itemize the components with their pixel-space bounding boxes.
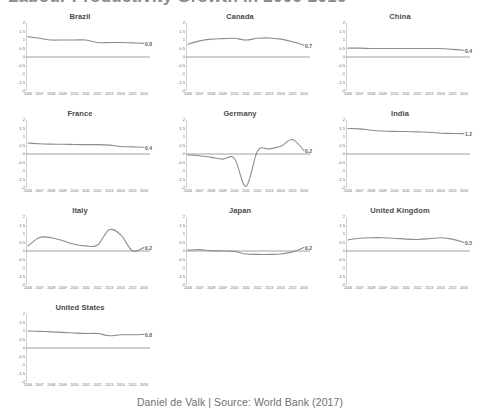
plot-area: 21.510.50-0.5-1-1.5-22006200720082009201… bbox=[12, 120, 152, 196]
y-axis-labels: 21.510.50-0.5-1-1.5-2 bbox=[12, 217, 25, 285]
y-tick-label: -1.5 bbox=[338, 80, 345, 84]
y-tick-label: 1 bbox=[343, 38, 345, 42]
x-tick-label: 2015 bbox=[448, 286, 456, 290]
y-tick-label: 0 bbox=[23, 152, 25, 156]
x-tick-label: 2010 bbox=[390, 92, 398, 96]
y-tick-label: -0.5 bbox=[18, 257, 25, 261]
y-tick-label: 0.5 bbox=[339, 46, 345, 50]
y-tick-label: 1.5 bbox=[339, 126, 345, 130]
y-tick-label: 0.5 bbox=[339, 240, 345, 244]
chart-canvas bbox=[346, 120, 470, 188]
x-tick-label: 2007 bbox=[356, 286, 364, 290]
x-tick-label: 2011 bbox=[242, 92, 250, 96]
chart-canvas bbox=[186, 120, 310, 188]
y-tick-label: 2 bbox=[343, 118, 345, 122]
x-axis-labels: 2006200720082009201020112012201320142015… bbox=[346, 189, 470, 196]
y-tick-label: 1.5 bbox=[339, 223, 345, 227]
y-tick-label: 0.5 bbox=[179, 143, 185, 147]
y-axis-labels: 21.510.50-0.5-1-1.5-2 bbox=[332, 23, 345, 91]
x-tick-label: 2007 bbox=[36, 92, 44, 96]
y-tick-label: -1 bbox=[341, 266, 345, 270]
y-tick-label: 0 bbox=[183, 249, 185, 253]
y-tick-label: -1 bbox=[21, 72, 25, 76]
x-tick-label: 2008 bbox=[47, 286, 55, 290]
x-tick-label: 2016 bbox=[300, 286, 308, 290]
y-tick-label: 1 bbox=[183, 135, 185, 139]
x-tick-label: 2012 bbox=[94, 383, 102, 387]
end-value-label: 0.2 bbox=[145, 245, 152, 251]
x-tick-label: 2007 bbox=[196, 286, 204, 290]
x-tick-label: 2011 bbox=[402, 92, 410, 96]
data-line bbox=[28, 37, 144, 44]
y-tick-label: 0 bbox=[343, 55, 345, 59]
x-tick-label: 2006 bbox=[344, 92, 352, 96]
x-tick-label: 2014 bbox=[117, 383, 125, 387]
y-tick-label: 2 bbox=[343, 21, 345, 25]
x-tick-label: 2015 bbox=[288, 189, 296, 193]
x-tick-label: 2008 bbox=[367, 189, 375, 193]
y-tick-label: 0.5 bbox=[339, 143, 345, 147]
y-tick-label: 1 bbox=[343, 135, 345, 139]
x-tick-label: 2008 bbox=[367, 286, 375, 290]
y-tick-label: 0.5 bbox=[19, 240, 25, 244]
y-tick-label: -1 bbox=[21, 169, 25, 173]
x-tick-label: 2006 bbox=[184, 189, 192, 193]
x-tick-label: 2015 bbox=[448, 189, 456, 193]
x-tick-label: 2009 bbox=[59, 383, 67, 387]
end-value-label: 0.2 bbox=[305, 245, 312, 251]
x-tick-label: 2016 bbox=[300, 189, 308, 193]
x-tick-label: 2015 bbox=[128, 92, 136, 96]
x-tick-label: 2014 bbox=[277, 92, 285, 96]
x-tick-label: 2006 bbox=[344, 189, 352, 193]
x-tick-label: 2015 bbox=[128, 286, 136, 290]
x-tick-label: 2009 bbox=[219, 286, 227, 290]
y-tick-label: 1 bbox=[23, 329, 25, 333]
x-tick-label: 2012 bbox=[94, 189, 102, 193]
footer-credit: Daniel de Valk | Source: World Bank (201… bbox=[0, 396, 480, 408]
end-value-label: 0.7 bbox=[305, 43, 312, 49]
x-tick-label: 2015 bbox=[128, 383, 136, 387]
x-tick-label: 2010 bbox=[70, 92, 78, 96]
x-axis-labels: 2006200720082009201020112012201320142015… bbox=[346, 286, 470, 293]
y-tick-label: 2 bbox=[23, 215, 25, 219]
chart-panel-canada: Canada21.510.50-0.5-1-1.5-22006200720082… bbox=[160, 9, 320, 106]
y-tick-label: 1.5 bbox=[19, 223, 25, 227]
x-tick-label: 2006 bbox=[24, 383, 32, 387]
chart-canvas bbox=[186, 217, 310, 285]
y-tick-label: -1.5 bbox=[18, 371, 25, 375]
y-tick-label: -0.5 bbox=[18, 63, 25, 67]
x-tick-label: 2015 bbox=[128, 189, 136, 193]
end-value-label: 0.5 bbox=[465, 240, 472, 246]
x-tick-label: 2012 bbox=[94, 286, 102, 290]
plot-area: 21.510.50-0.5-1-1.5-22006200720082009201… bbox=[332, 23, 472, 99]
x-tick-label: 2011 bbox=[242, 286, 250, 290]
y-tick-label: 1.5 bbox=[179, 223, 185, 227]
chart-canvas bbox=[346, 23, 470, 91]
y-tick-label: 2 bbox=[183, 21, 185, 25]
x-tick-label: 2010 bbox=[390, 286, 398, 290]
y-tick-label: 0 bbox=[343, 152, 345, 156]
x-tick-label: 2010 bbox=[70, 286, 78, 290]
x-tick-label: 2012 bbox=[414, 286, 422, 290]
x-tick-label: 2008 bbox=[207, 92, 215, 96]
y-tick-label: -1 bbox=[341, 72, 345, 76]
x-tick-label: 2008 bbox=[47, 189, 55, 193]
plot-area: 21.510.50-0.5-1-1.5-22006200720082009201… bbox=[332, 120, 472, 196]
x-tick-label: 2009 bbox=[59, 189, 67, 193]
x-tick-label: 2015 bbox=[288, 286, 296, 290]
data-line bbox=[348, 238, 464, 243]
data-line bbox=[28, 229, 144, 251]
y-tick-label: -0.5 bbox=[178, 63, 185, 67]
chart-canvas bbox=[346, 217, 470, 285]
y-tick-label: 0 bbox=[23, 249, 25, 253]
y-tick-label: 1 bbox=[183, 232, 185, 236]
y-tick-label: -1 bbox=[21, 363, 25, 367]
y-tick-label: -0.5 bbox=[18, 160, 25, 164]
x-tick-label: 2013 bbox=[265, 286, 273, 290]
chart-panel-germany: Germany21.510.50-0.5-1-1.5-2200620072008… bbox=[160, 106, 320, 203]
x-tick-label: 2013 bbox=[425, 286, 433, 290]
y-axis-labels: 21.510.50-0.5-1-1.5-2 bbox=[12, 120, 25, 188]
x-tick-label: 2013 bbox=[105, 383, 113, 387]
data-line bbox=[348, 129, 464, 134]
y-tick-label: -1 bbox=[341, 169, 345, 173]
